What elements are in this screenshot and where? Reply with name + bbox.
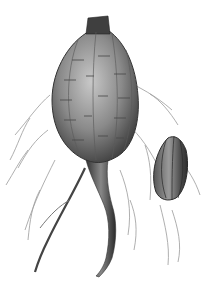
illustration [0, 0, 213, 293]
tuber-crown [86, 16, 110, 34]
lateral-root [35, 168, 85, 272]
main-tuber [52, 16, 138, 163]
seed-pod [154, 136, 188, 200]
tuber-illustration [0, 0, 213, 293]
taproot [86, 160, 116, 277]
